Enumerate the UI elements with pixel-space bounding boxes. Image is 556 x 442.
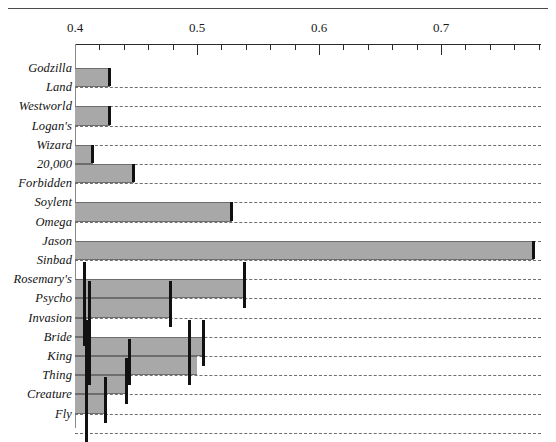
bar [75, 241, 534, 260]
category-label: Sinbad [0, 253, 72, 268]
category-label: Rosemary's [0, 272, 72, 287]
category-label: Forbidden [0, 176, 72, 191]
gridline [75, 318, 541, 319]
gridline [75, 126, 541, 127]
bar [75, 68, 110, 87]
bar-end-cap [188, 339, 191, 385]
bar [75, 202, 232, 221]
category-label: Godzilla [0, 61, 72, 76]
gridline [75, 260, 541, 261]
gridline [75, 145, 541, 146]
bar-end-cap [108, 106, 111, 124]
gridline [75, 106, 541, 107]
category-label: Creature [0, 387, 72, 402]
gridline [75, 433, 541, 434]
bar-end-cap [104, 377, 107, 423]
x-axis-tick-label: 0.6 [311, 20, 327, 36]
category-label: 20,000 [0, 157, 72, 172]
category-label: Fly [0, 406, 72, 421]
bar [75, 164, 134, 183]
bar-end-cap [532, 241, 535, 259]
gridline [75, 375, 541, 376]
bar-end-cap [91, 145, 94, 163]
gridline [75, 87, 541, 88]
bar [75, 394, 106, 413]
category-label: Logan's [0, 118, 72, 133]
bar-end-cap [108, 68, 111, 86]
category-label: Westworld [0, 99, 72, 114]
category-label: Thing [0, 368, 72, 383]
category-label: Land [0, 80, 72, 95]
gridline [75, 183, 541, 184]
y-axis-labels: GodzillaLandWestworldLogan'sWizard20,000… [0, 0, 72, 440]
category-label: Invasion [0, 310, 72, 325]
category-label: Soylent [0, 195, 72, 210]
bar-end-cap [85, 396, 88, 442]
bar [75, 375, 127, 394]
top-divider-rule [8, 8, 548, 9]
gridline [75, 222, 541, 223]
category-label: Wizard [0, 137, 72, 152]
bar-end-cap [125, 358, 128, 404]
gridline [75, 414, 541, 415]
bar [75, 279, 245, 298]
bar-end-cap [202, 320, 205, 366]
category-label: King [0, 349, 72, 364]
category-label: Psycho [0, 291, 72, 306]
bar-end-cap [243, 262, 246, 308]
category-label: Omega [0, 214, 72, 229]
bar [75, 356, 197, 375]
bar-end-cap [230, 202, 233, 220]
x-axis-tick-label: 0.7 [433, 20, 449, 36]
x-axis-line [75, 44, 541, 45]
gridline [75, 394, 541, 395]
gridline [75, 164, 541, 165]
plot-area [75, 50, 541, 428]
bar [75, 337, 204, 356]
category-label: Bride [0, 329, 72, 344]
bar-end-cap [132, 164, 135, 182]
x-axis-tick-label: 0.5 [189, 20, 205, 36]
bar-end-cap [169, 281, 172, 327]
bar [75, 106, 110, 125]
category-label: Jason [0, 233, 72, 248]
